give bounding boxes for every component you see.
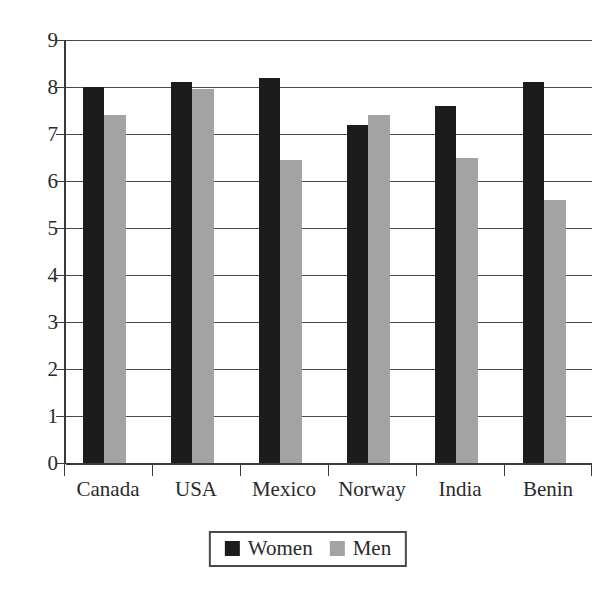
y-axis-tick-label: 0 <box>20 453 58 474</box>
legend-swatch-women-icon <box>225 541 240 556</box>
bar-group <box>240 40 328 463</box>
y-axis-tick-label: 8 <box>20 77 58 98</box>
y-axis-tick-label: 4 <box>20 265 58 286</box>
bar-group <box>152 40 240 463</box>
bar-usa-women <box>171 82 192 463</box>
bars-layer <box>64 40 592 463</box>
x-axis-tick <box>504 463 505 476</box>
bar-norway-men <box>368 115 390 463</box>
y-axis-tick-label: 3 <box>20 312 58 333</box>
x-axis-tick <box>328 463 329 476</box>
bar-benin-women <box>523 82 544 463</box>
category-ticks <box>64 463 592 477</box>
legend-item-women: Women <box>225 538 313 559</box>
bar-norway-women <box>347 125 368 463</box>
x-axis-label-india: India <box>438 478 481 501</box>
bar-canada-men <box>104 115 126 463</box>
x-axis-tick <box>64 463 65 476</box>
bar-canada-women <box>83 87 104 463</box>
y-axis-tick-label: 1 <box>20 406 58 427</box>
x-axis-label-benin: Benin <box>523 478 573 501</box>
bar-usa-men <box>192 89 214 463</box>
bar-group <box>416 40 504 463</box>
x-axis-tick <box>416 463 417 476</box>
chart-legend: Women Men <box>209 531 407 567</box>
x-axis-tick <box>152 463 153 476</box>
bar-india-men <box>456 158 478 464</box>
bar-group <box>64 40 152 463</box>
bar-india-women <box>435 106 456 463</box>
plot-area: 9876543210 CanadaUSAMexicoNorwayIndiaBen… <box>0 0 616 500</box>
x-axis-tick <box>591 463 592 476</box>
x-axis-label-norway: Norway <box>338 478 406 501</box>
x-axis-label-usa: USA <box>175 478 217 501</box>
bar-group <box>328 40 416 463</box>
y-axis-tick-label: 2 <box>20 359 58 380</box>
bar-benin-men <box>544 200 566 463</box>
y-axis-tick-label: 5 <box>20 218 58 239</box>
legend-swatch-men-icon <box>330 541 345 556</box>
x-axis-label-mexico: Mexico <box>252 478 316 501</box>
y-axis-tick-label: 6 <box>20 171 58 192</box>
legend-label-women: Women <box>248 538 313 559</box>
bar-chart: 9876543210 CanadaUSAMexicoNorwayIndiaBen… <box>0 0 616 594</box>
bar-group <box>504 40 592 463</box>
y-axis-tick-label: 7 <box>20 124 58 145</box>
bar-mexico-women <box>259 78 280 463</box>
x-axis-label-canada: Canada <box>77 478 140 501</box>
x-axis-labels: CanadaUSAMexicoNorwayIndiaBenin <box>64 478 592 512</box>
legend-label-men: Men <box>353 538 392 559</box>
y-axis-labels: 9876543210 <box>20 0 58 500</box>
legend-item-men: Men <box>330 538 392 559</box>
x-axis-tick <box>240 463 241 476</box>
bar-mexico-men <box>280 160 302 463</box>
y-axis-tick-label: 9 <box>20 30 58 51</box>
